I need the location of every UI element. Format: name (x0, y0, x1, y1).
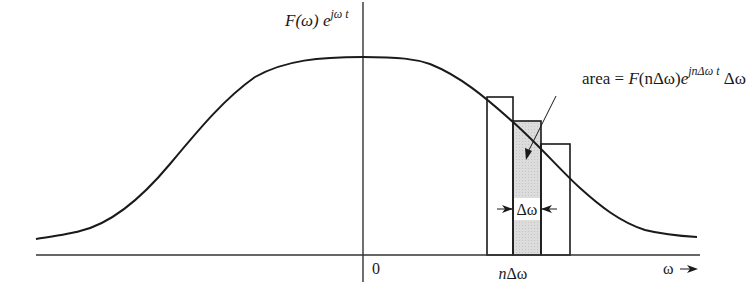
n-delta-omega-label: nΔω (499, 265, 528, 282)
fourier-strip-diagram: F(ω) ejω t area = F(nΔω)ejnΔω t Δω Δω 0 … (0, 0, 753, 297)
shaded-strip (513, 121, 541, 255)
delta-omega-label: Δω (517, 201, 538, 218)
origin-label: 0 (372, 260, 380, 277)
strip-right (541, 144, 570, 255)
y-axis-label: F(ω) ejω t (284, 7, 349, 30)
strip-left (487, 97, 513, 255)
x-axis-label: ω (663, 260, 674, 277)
area-label: area = F(nΔω)ejnΔω t Δω (582, 64, 746, 88)
